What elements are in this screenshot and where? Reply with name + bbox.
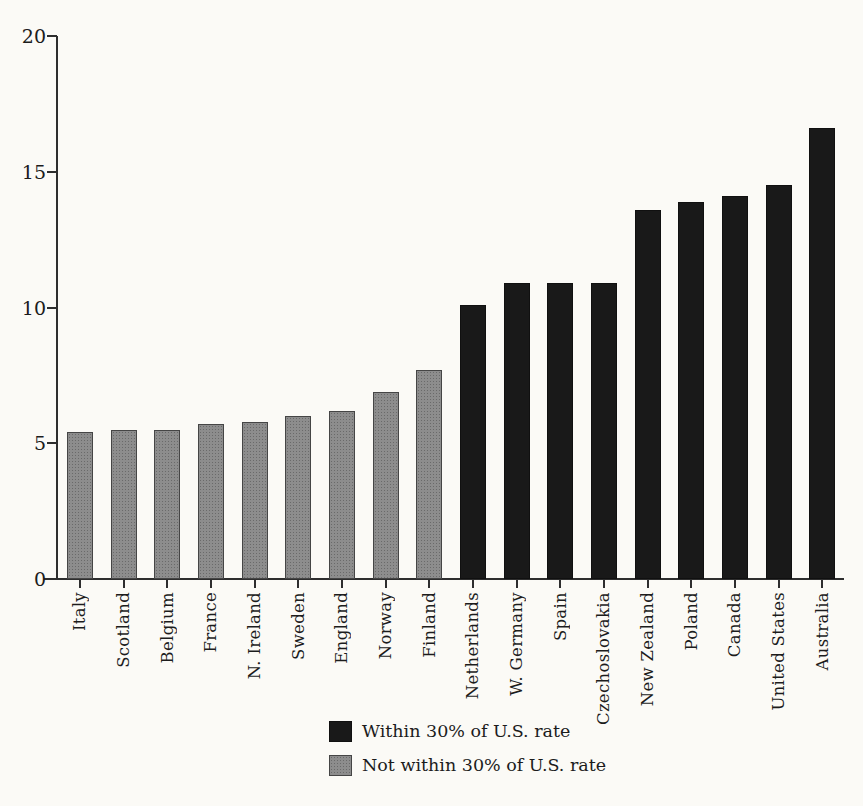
x-label-w-germany: W. Germany bbox=[507, 592, 526, 696]
x-tick-france bbox=[210, 580, 212, 588]
x-tick-w-germany bbox=[516, 580, 518, 588]
bar-n-ireland bbox=[242, 422, 268, 580]
x-tick-czechoslovakia bbox=[603, 580, 605, 588]
x-label-scotland: Scotland bbox=[114, 592, 133, 668]
x-label-netherlands: Netherlands bbox=[463, 592, 482, 699]
bar-slot-canada bbox=[713, 36, 757, 579]
x-tick-belgium bbox=[166, 580, 168, 588]
x-tick-netherlands bbox=[472, 580, 474, 588]
x-label-sweden: Sweden bbox=[289, 592, 308, 660]
x-tick-sweden bbox=[297, 580, 299, 588]
bar-spain bbox=[547, 283, 573, 579]
x-tick-poland bbox=[690, 580, 692, 588]
x-label-slot-netherlands: Netherlands bbox=[451, 592, 495, 717]
bar-italy bbox=[67, 432, 93, 579]
x-label-slot-new-zealand: New Zealand bbox=[626, 592, 670, 717]
x-tick-italy bbox=[79, 580, 81, 588]
bar-slot-netherlands bbox=[451, 36, 495, 579]
y-tick-label-5: 5 bbox=[6, 433, 46, 453]
x-label-poland: Poland bbox=[682, 592, 701, 650]
y-tick-label-20: 20 bbox=[6, 26, 46, 46]
legend-label-not-within: Not within 30% of U.S. rate bbox=[362, 755, 606, 775]
x-tick-new-zealand bbox=[647, 580, 649, 588]
bar-new-zealand bbox=[635, 210, 661, 579]
y-tick-10 bbox=[47, 307, 57, 309]
x-tick-england bbox=[341, 580, 343, 588]
x-label-n-ireland: N. Ireland bbox=[245, 592, 264, 679]
x-label-united-states: United States bbox=[769, 592, 788, 711]
bar-chart-figure: 20151050 ItalyScotlandBelgiumFranceN. Ir… bbox=[0, 0, 863, 806]
x-tick-scotland bbox=[123, 580, 125, 588]
x-tick-canada bbox=[734, 580, 736, 588]
x-tick-spain bbox=[559, 580, 561, 588]
bar-slot-spain bbox=[538, 36, 582, 579]
bar-canada bbox=[722, 196, 748, 579]
bar-slot-norway bbox=[364, 36, 408, 579]
legend-label-within: Within 30% of U.S. rate bbox=[362, 721, 570, 741]
legend: Within 30% of U.S. rate Not within 30% o… bbox=[329, 720, 606, 788]
bar-slot-england bbox=[320, 36, 364, 579]
plot-area bbox=[58, 36, 844, 579]
bar-slot-scotland bbox=[102, 36, 146, 579]
bar-slot-czechoslovakia bbox=[582, 36, 626, 579]
bar-slot-sweden bbox=[276, 36, 320, 579]
bar-slot-w-germany bbox=[495, 36, 539, 579]
bar-england bbox=[329, 411, 355, 579]
y-tick-5 bbox=[47, 442, 57, 444]
x-tick-norway bbox=[385, 580, 387, 588]
bar-slot-australia bbox=[800, 36, 844, 579]
x-label-slot-finland: Finland bbox=[407, 592, 451, 717]
bar-belgium bbox=[154, 430, 180, 579]
bar-slot-new-zealand bbox=[626, 36, 670, 579]
bar-netherlands bbox=[460, 305, 486, 579]
x-label-canada: Canada bbox=[725, 592, 744, 657]
legend-swatch-within bbox=[329, 721, 352, 742]
legend-item-within: Within 30% of U.S. rate bbox=[329, 720, 606, 742]
bar-slot-finland bbox=[407, 36, 451, 579]
bar-scotland bbox=[111, 430, 137, 579]
x-label-belgium: Belgium bbox=[158, 592, 177, 663]
y-tick-0 bbox=[47, 578, 57, 580]
x-label-slot-sweden: Sweden bbox=[276, 592, 320, 717]
x-label-spain: Spain bbox=[551, 592, 570, 641]
x-tick-united-states bbox=[778, 580, 780, 588]
x-label-slot-poland: Poland bbox=[669, 592, 713, 717]
x-label-slot-belgium: Belgium bbox=[145, 592, 189, 717]
x-label-slot-w-germany: W. Germany bbox=[495, 592, 539, 717]
bar-norway bbox=[373, 392, 399, 579]
x-label-australia: Australia bbox=[813, 592, 832, 670]
y-tick-label-10: 10 bbox=[6, 298, 46, 318]
x-label-czechoslovakia: Czechoslovakia bbox=[594, 592, 613, 725]
bar-australia bbox=[809, 128, 835, 579]
x-label-slot-france: France bbox=[189, 592, 233, 717]
bar-france bbox=[198, 424, 224, 579]
bar-slot-united-states bbox=[757, 36, 801, 579]
x-label-finland: Finland bbox=[420, 592, 439, 658]
bar-slot-france bbox=[189, 36, 233, 579]
x-tick-n-ireland bbox=[254, 580, 256, 588]
legend-swatch-not-within bbox=[329, 755, 352, 776]
x-label-slot-czechoslovakia: Czechoslovakia bbox=[582, 592, 626, 717]
legend-item-not-within: Not within 30% of U.S. rate bbox=[329, 754, 606, 776]
y-tick-20 bbox=[47, 35, 57, 37]
bar-slot-poland bbox=[669, 36, 713, 579]
bar-slot-belgium bbox=[145, 36, 189, 579]
bar-w-germany bbox=[504, 283, 530, 579]
x-label-norway: Norway bbox=[376, 592, 395, 659]
y-tick-15 bbox=[47, 171, 57, 173]
x-label-slot-england: England bbox=[320, 592, 364, 717]
x-label-slot-scotland: Scotland bbox=[102, 592, 146, 717]
x-tick-australia bbox=[821, 580, 823, 588]
x-axis-labels: ItalyScotlandBelgiumFranceN. IrelandSwed… bbox=[58, 592, 844, 717]
x-label-slot-australia: Australia bbox=[800, 592, 844, 717]
x-label-slot-spain: Spain bbox=[538, 592, 582, 717]
scanned-chart-page: 20151050 ItalyScotlandBelgiumFranceN. Ir… bbox=[0, 0, 863, 806]
bar-slot-italy bbox=[58, 36, 102, 579]
x-label-england: England bbox=[332, 592, 351, 664]
x-label-slot-norway: Norway bbox=[364, 592, 408, 717]
x-label-new-zealand: New Zealand bbox=[638, 592, 657, 706]
bar-poland bbox=[678, 202, 704, 579]
bar-czechoslovakia bbox=[591, 283, 617, 579]
x-label-slot-united-states: United States bbox=[757, 592, 801, 717]
x-label-italy: Italy bbox=[70, 592, 89, 631]
